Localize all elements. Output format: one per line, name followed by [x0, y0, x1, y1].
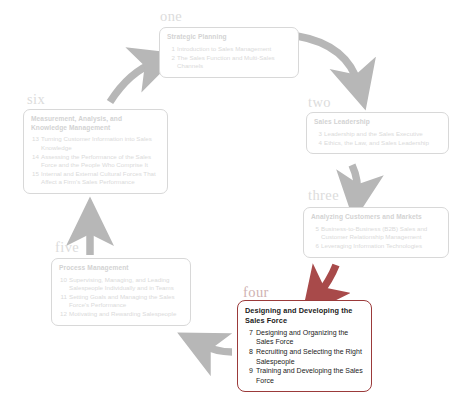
item-text: Leveraging Information Technologies [321, 242, 422, 249]
item-text: Introduction to Sales Management [177, 45, 271, 52]
stage-title-four: Designing and Developing the Sales Force [245, 306, 364, 325]
arrow-two-to-three [352, 165, 357, 196]
stage-items-three: 5 Business-to-Business (B2B) Sales and C… [311, 225, 441, 251]
item-text: Assessing the Performance of the Sales F… [41, 153, 151, 168]
stage-number-one: one [160, 8, 182, 25]
stage-title-three: Analyzing Customers and Markets [311, 213, 441, 222]
item-number: 2 [167, 54, 175, 62]
list-item: 12 Motivating and Rewarding Salespeople [59, 310, 183, 318]
item-text: Setting Goals and Managing the Sales For… [69, 293, 175, 308]
diagram-canvas: one Strategic Planning 1 Introduction to… [0, 0, 469, 420]
item-number: 8 [245, 347, 253, 356]
list-item: 2 The Sales Function and Multi-Sales Cha… [167, 54, 291, 71]
list-item: 14 Assessing the Performance of the Sale… [31, 153, 160, 170]
stage-title-one: Strategic Planning [167, 33, 291, 42]
list-item: 10 Supervising, Managing, and Leading Sa… [59, 276, 183, 293]
stage-number-two: two [308, 94, 331, 111]
item-number: 5 [311, 225, 319, 233]
stage-number-five: five [55, 239, 79, 256]
list-item: 7 Designing and Organizing the Sales For… [245, 328, 364, 347]
item-number: 13 [31, 135, 39, 143]
list-item: 3 Leadership and the Sales Executive [314, 130, 441, 138]
stage-box-six[interactable]: Measurement, Analysis, and Knowledge Man… [23, 109, 168, 194]
item-number: 10 [59, 276, 67, 284]
stage-number-four: four [243, 284, 269, 301]
item-number: 3 [314, 130, 322, 138]
stage-items-two: 3 Leadership and the Sales Executive 4 E… [314, 130, 441, 147]
item-number: 4 [314, 139, 322, 147]
list-item: 15 Internal and External Cultural Forces… [31, 170, 160, 187]
item-text: Business-to-Business (B2B) Sales and Cus… [321, 225, 427, 240]
item-text: Ethics, the Law, and Sales Leadership [324, 139, 429, 146]
item-text: Turning Customer Information into Sales … [41, 135, 152, 150]
stage-box-two[interactable]: Sales Leadership 3 Leadership and the Sa… [306, 112, 449, 154]
item-number: 7 [245, 328, 253, 337]
stage-items-five: 10 Supervising, Managing, and Leading Sa… [59, 276, 183, 319]
item-text: Motivating and Rewarding Salespeople [69, 310, 176, 317]
item-number: 1 [167, 45, 175, 53]
list-item: 13 Turning Customer Information into Sal… [31, 135, 160, 152]
stage-box-five[interactable]: Process Management 10 Supervising, Manag… [51, 258, 191, 326]
stage-number-three: three [308, 187, 339, 204]
list-item: 11 Setting Goals and Managing the Sales … [59, 293, 183, 310]
stage-items-one: 1 Introduction to Sales Management 2 The… [167, 45, 291, 71]
arrow-four-to-five [200, 344, 232, 352]
item-text: Recruiting and Selecting the Right Sales… [256, 348, 362, 364]
stage-items-four: 7 Designing and Organizing the Sales For… [245, 328, 364, 385]
item-text: Designing and Organizing the Sales Force [256, 329, 348, 345]
arrow-one-to-two [297, 36, 359, 86]
item-text: Training and Developing the Sales Force [256, 367, 363, 383]
item-text: Internal and External Cultural Forces Th… [41, 170, 156, 185]
list-item: 6 Leveraging Information Technologies [311, 242, 441, 250]
arrow-three-to-four [317, 265, 336, 297]
stage-box-one[interactable]: Strategic Planning 1 Introduction to Sal… [159, 27, 299, 78]
list-item: 1 Introduction to Sales Management [167, 45, 291, 53]
item-number: 11 [59, 293, 67, 301]
item-text: Supervising, Managing, and Leading Sales… [69, 276, 174, 291]
item-text: Leadership and the Sales Executive [324, 130, 423, 137]
stage-number-six: six [27, 91, 45, 108]
item-number: 6 [311, 242, 319, 250]
list-item: 4 Ethics, the Law, and Sales Leadership [314, 139, 441, 147]
item-number: 9 [245, 366, 253, 375]
list-item: 5 Business-to-Business (B2B) Sales and C… [311, 225, 441, 242]
arrow-six-to-one [110, 62, 156, 102]
item-number: 12 [59, 310, 67, 318]
item-number: 15 [31, 170, 39, 178]
stage-title-two: Sales Leadership [314, 118, 441, 127]
list-item: 9 Training and Developing the Sales Forc… [245, 366, 364, 385]
stage-box-four[interactable]: Designing and Developing the Sales Force… [237, 300, 372, 392]
list-item: 8 Recruiting and Selecting the Right Sal… [245, 347, 364, 366]
item-number: 14 [31, 153, 39, 161]
stage-title-six: Measurement, Analysis, and Knowledge Man… [31, 115, 160, 132]
stage-items-six: 13 Turning Customer Information into Sal… [31, 135, 160, 186]
item-text: The Sales Function and Multi-Sales Chann… [177, 54, 275, 69]
stage-title-five: Process Management [59, 264, 183, 273]
stage-box-three[interactable]: Analyzing Customers and Markets 5 Busine… [303, 207, 449, 258]
